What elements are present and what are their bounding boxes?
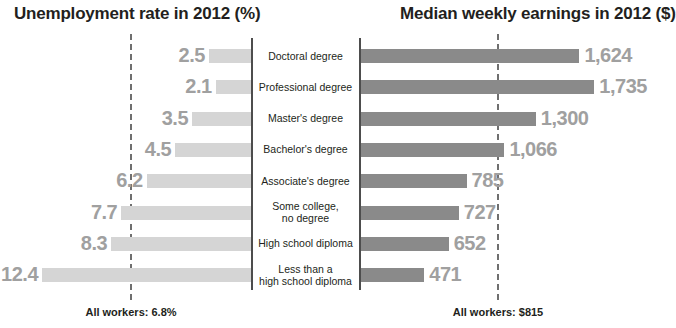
earnings-bar [361,112,536,126]
earnings-value-label: 1,735 [599,73,647,99]
unemployment-value-label: 7.7 [91,199,117,225]
chart-row: 8.3High school diploma652 [0,228,636,259]
unemployment-bar [111,237,251,251]
category-label: Master's degree [256,103,355,134]
earnings-value-label: 785 [472,167,504,193]
earnings-bar [361,143,504,157]
category-label: Professional degree [256,71,355,102]
unemployment-value-label: 6.2 [116,167,142,193]
chart-row: 2.1Professional degree1,735 [0,71,636,102]
category-label: Bachelor's degree [256,134,355,165]
unemployment-value-label: 2.5 [179,42,205,68]
unemployment-bar [147,174,251,188]
category-label: High school diploma [256,228,355,259]
right-reference-label: All workers: $815 [453,306,544,318]
left-reference-label: All workers: 6.8% [85,306,176,318]
chart-row: 2.5Doctoral degree1,624 [0,40,636,71]
chart-row: 6.2Associate's degree785 [0,165,636,196]
chart-row: 3.5Master's degree1,300 [0,103,636,134]
left-chart-title: Unemployment rate in 2012 (%) [14,4,260,24]
unemployment-value-label: 12.4 [1,261,38,287]
earnings-bar [361,80,594,94]
earnings-value-label: 1,300 [541,105,589,131]
right-chart-title: Median weekly earnings in 2012 ($) [400,4,676,24]
earnings-value-label: 471 [429,261,461,287]
unemployment-bar [175,143,251,157]
category-label: Associate's degree [256,165,355,196]
earnings-bar [361,49,579,63]
category-label: Doctoral degree [256,40,355,71]
earnings-value-label: 1,066 [509,136,557,162]
unemployment-bar [209,49,251,63]
category-label: Less than ahigh school diploma [256,259,355,290]
unemployment-bar [216,80,251,94]
unemployment-bar [192,112,251,126]
chart-row: 7.7Some college,no degree727 [0,197,636,228]
unemployment-value-label: 3.5 [162,105,188,131]
chart-row: 4.5Bachelor's degree1,066 [0,134,636,165]
earnings-value-label: 727 [464,199,496,225]
unemployment-bar [121,206,251,220]
earnings-bar [361,268,424,282]
earnings-bar [361,174,467,188]
earnings-bar [361,237,449,251]
earnings-value-label: 652 [454,230,486,256]
chart-row: 12.4Less than ahigh school diploma471 [0,259,636,290]
unemployment-value-label: 8.3 [81,230,107,256]
earnings-value-label: 1,624 [584,42,632,68]
unemployment-bar [42,268,251,282]
category-label: Some college,no degree [256,197,355,228]
earnings-bar [361,206,459,220]
unemployment-value-label: 2.1 [185,73,211,99]
unemployment-value-label: 4.5 [145,136,171,162]
